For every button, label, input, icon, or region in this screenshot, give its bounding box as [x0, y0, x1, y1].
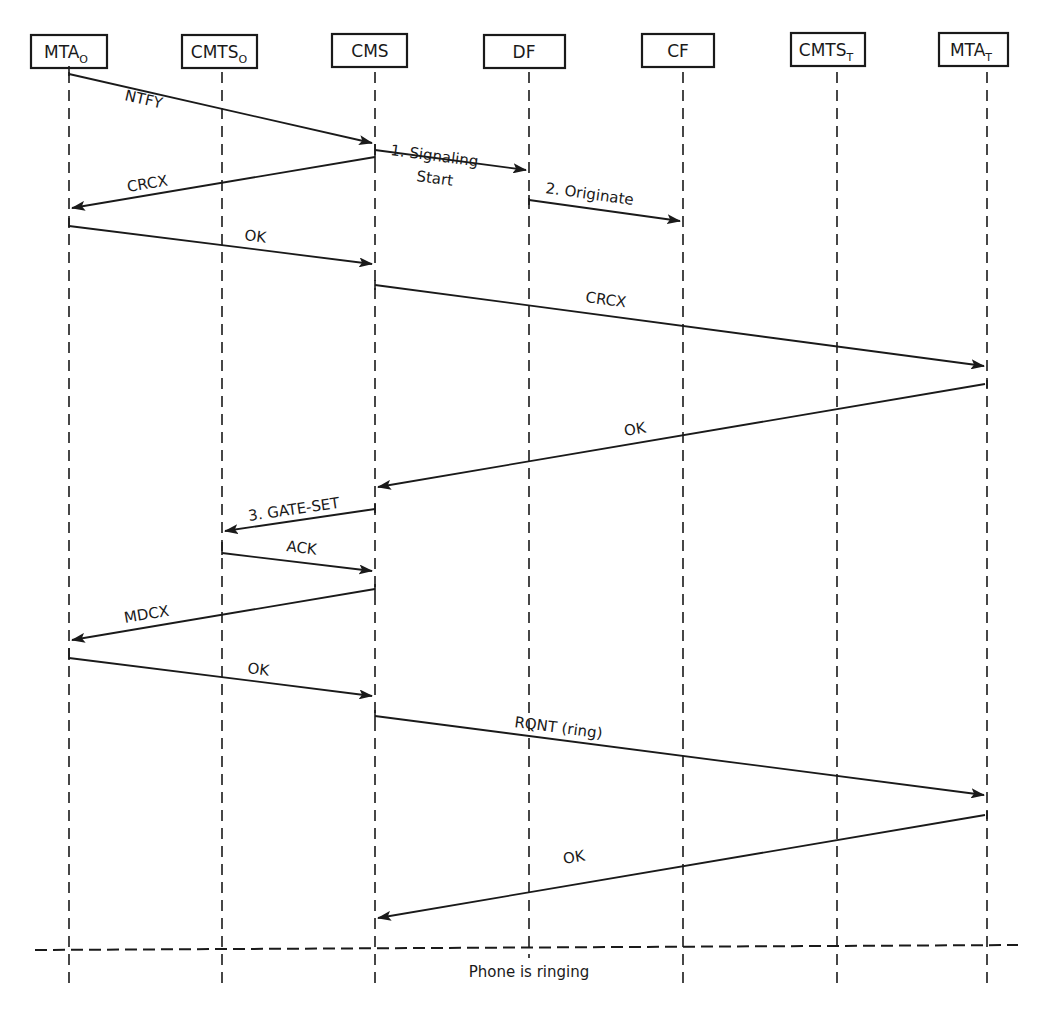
participant-subscript: O: [239, 53, 248, 66]
state-separator: Phone is ringing: [35, 945, 1018, 984]
sequence-diagram: MTAO CMTSO CMS DF CF CMTST MTAT NTFY 1. …: [0, 0, 1056, 1011]
participant-cms: CMS: [332, 34, 407, 67]
participant-label: CMTS: [191, 42, 239, 62]
participant-label: MTA: [44, 42, 80, 62]
arrow-icon: [378, 815, 985, 918]
message-label: ACK: [286, 537, 319, 559]
message-crcx-origin: CRCX: [72, 152, 375, 208]
arrow-icon: [72, 157, 375, 208]
arrow-icon: [378, 384, 985, 487]
message-ok-3: OK: [69, 648, 372, 696]
message-label: NTFY: [123, 86, 165, 112]
message-originate: 2. Originate: [529, 179, 680, 221]
message-label: RQNT (ring): [513, 713, 603, 742]
participant-subscript: T: [984, 51, 992, 64]
arrow-icon: [72, 589, 375, 640]
message-label: OK: [244, 226, 269, 247]
arrow-icon: [375, 285, 984, 366]
message-ntfy: NTFY: [69, 66, 372, 143]
message-ack: ACK: [222, 537, 372, 571]
state-label: Phone is ringing: [469, 963, 590, 981]
participant-label: DF: [513, 42, 536, 62]
message-rqnt-ring: RQNT (ring): [375, 710, 984, 795]
message-label: OK: [562, 846, 587, 868]
message-label: OK: [623, 418, 648, 440]
participant-cmts-t: CMTST: [791, 33, 865, 66]
participant-subscript: T: [845, 51, 853, 64]
message-crcx-terminating: CRCX: [375, 280, 984, 366]
lifelines: [69, 36, 987, 985]
participant-cmts-o: CMTSO: [182, 35, 257, 68]
message-label-line2: Start: [415, 167, 454, 190]
participant-label: CMS: [351, 41, 388, 61]
message-mdcx: MDCX: [72, 584, 375, 640]
participant-label: CF: [667, 41, 689, 61]
participant-df: DF: [484, 35, 565, 68]
message-label: OK: [247, 659, 272, 680]
participant-label: CMTS: [799, 40, 847, 60]
separator-line: [35, 945, 1018, 950]
participant-mta-o: MTAO: [31, 35, 107, 68]
message-label: MDCX: [123, 602, 171, 627]
participant-subscript: O: [79, 53, 88, 66]
message-signaling-start: 1. Signaling Start: [375, 141, 526, 190]
participant-cf: CF: [642, 34, 714, 67]
message-gate-set: 3. GATE-SET: [225, 494, 375, 531]
message-ok-1: OK: [69, 218, 372, 264]
message-label: 1. Signaling: [389, 141, 479, 170]
arrow-icon: [69, 658, 372, 696]
message-label: CRCX: [584, 288, 627, 311]
participant-label: MTA: [950, 40, 986, 60]
arrow-icon: [375, 716, 984, 795]
arrow-icon: [69, 226, 372, 264]
participant-mta-t: MTAT: [939, 33, 1008, 66]
arrow-icon: [69, 74, 372, 143]
